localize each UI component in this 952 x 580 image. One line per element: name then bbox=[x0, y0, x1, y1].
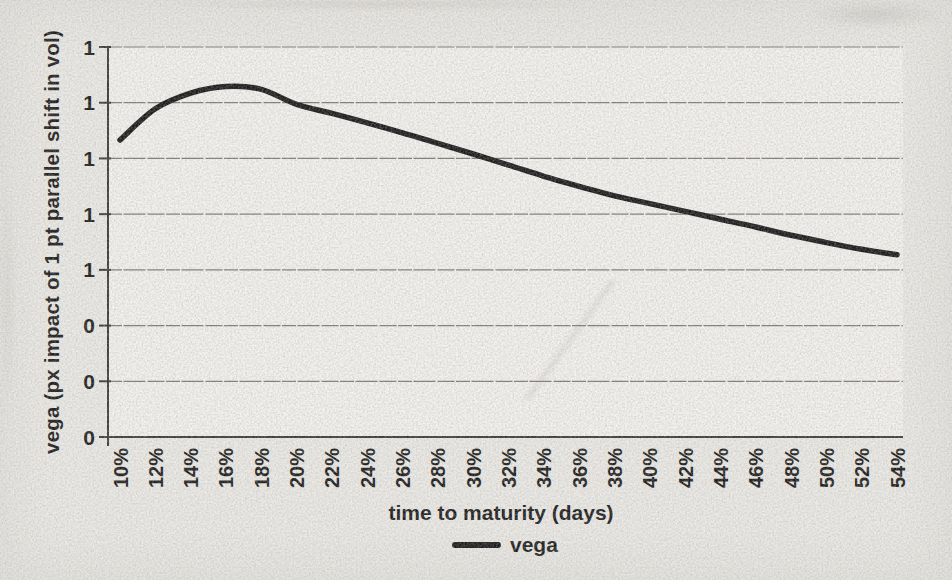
x-tick-label: 52% bbox=[851, 448, 873, 488]
x-tick-label: 36% bbox=[569, 448, 591, 488]
y-tick-label: 0 bbox=[83, 370, 95, 393]
x-tick-label: 18% bbox=[251, 448, 273, 488]
legend-label: vega bbox=[510, 533, 558, 557]
x-tick-label: 20% bbox=[286, 448, 308, 488]
x-tick-label: 54% bbox=[887, 448, 909, 488]
x-tick-label: 48% bbox=[781, 448, 803, 488]
y-tick-label: 1 bbox=[83, 203, 95, 226]
x-tick-label: 12% bbox=[145, 448, 167, 488]
x-tick-label: 30% bbox=[463, 448, 485, 488]
legend-line-swatch bbox=[452, 542, 501, 548]
x-tick-label: 14% bbox=[180, 448, 202, 488]
x-tick-label: 16% bbox=[215, 448, 237, 488]
x-tick-label: 46% bbox=[745, 448, 767, 488]
x-tick-label: 38% bbox=[604, 448, 626, 488]
y-tick-label: 0 bbox=[83, 314, 95, 337]
chart-canvas: 1111100010%12%14%16%18%20%22%24%26%28%30… bbox=[0, 0, 952, 580]
y-tick-label: 1 bbox=[83, 147, 95, 170]
x-tick-label: 22% bbox=[321, 448, 343, 488]
y-tick-label: 1 bbox=[83, 258, 95, 281]
scanned-page: 1111100010%12%14%16%18%20%22%24%26%28%30… bbox=[0, 0, 952, 580]
x-axis-title: time to maturity (days) bbox=[388, 501, 613, 525]
y-tick-label: 1 bbox=[83, 91, 95, 114]
x-tick-label: 24% bbox=[357, 448, 379, 488]
x-tick-label: 10% bbox=[110, 448, 132, 488]
x-tick-label: 42% bbox=[675, 448, 697, 488]
x-tick-label: 28% bbox=[427, 448, 449, 488]
y-axis-title: vega (px impact of 1 pt parallel shift i… bbox=[40, 30, 64, 454]
x-tick-label: 34% bbox=[533, 448, 555, 488]
x-tick-label: 50% bbox=[816, 448, 838, 488]
x-tick-label: 32% bbox=[498, 448, 520, 488]
legend: vega bbox=[452, 533, 558, 557]
x-tick-label: 40% bbox=[639, 448, 661, 488]
x-tick-label: 44% bbox=[710, 448, 732, 488]
plot-area bbox=[108, 47, 903, 437]
y-tick-label: 0 bbox=[83, 426, 95, 449]
x-tick-label: 26% bbox=[392, 448, 414, 488]
y-tick-label: 1 bbox=[83, 36, 95, 59]
